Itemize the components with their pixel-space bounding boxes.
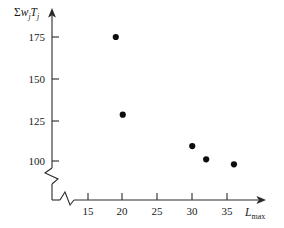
data-point: [231, 161, 237, 167]
data-points-layer: [113, 34, 237, 168]
x-tick-label-30: 30: [187, 205, 199, 217]
y-tick-label-175: 175: [29, 31, 46, 43]
pareto-scatter-figure: 175 150 125 100 ΣwjTj 15: [0, 0, 284, 228]
data-point: [113, 34, 119, 40]
x-axis-ticks: [88, 193, 227, 200]
x-tick-label-25: 25: [152, 205, 164, 217]
y-tick-label-100: 100: [29, 155, 46, 167]
x-tick-label-35: 35: [222, 205, 234, 217]
y-tick-label-150: 150: [29, 73, 46, 85]
y-axis-title: ΣwjTj: [14, 6, 40, 21]
x-axis-title-base: L: [244, 206, 251, 218]
data-point: [120, 112, 126, 118]
y-tick-label-125: 125: [29, 115, 46, 127]
t-subscript: j: [36, 12, 40, 21]
data-point: [203, 156, 209, 162]
y-axis-title-sigma: ΣwjTj: [14, 6, 40, 21]
x-tick-label-20: 20: [117, 205, 129, 217]
x-axis-title-text: Lmax: [244, 206, 265, 221]
data-point: [189, 143, 195, 149]
x-tick-label-15: 15: [83, 205, 95, 217]
x-axis-tick-labels: 15 20 25 30 35: [83, 205, 234, 217]
chart-canvas: 175 150 125 100 ΣwjTj 15: [0, 0, 284, 228]
y-axis-ticks: [52, 37, 59, 161]
x-axis-title: Lmax: [244, 206, 265, 221]
y-axis-tick-labels: 175 150 125 100: [29, 31, 46, 167]
x-axis-group: [52, 192, 266, 205]
y-axis-break-mark: [45, 168, 58, 184]
x-axis-break-mark: [60, 192, 74, 205]
x-axis-title-subscript: max: [251, 212, 265, 221]
